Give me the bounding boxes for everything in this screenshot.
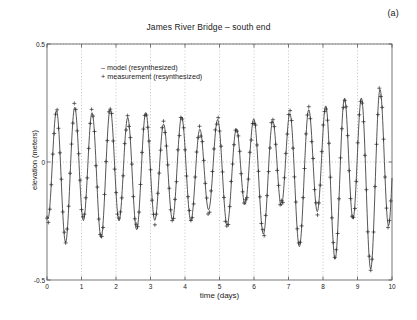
x-tick-label: 10	[388, 283, 395, 290]
series-measurement-markers	[45, 86, 393, 272]
x-tick-label: 3	[149, 283, 153, 290]
y-tick-label: 0.5	[36, 41, 45, 48]
x-tick-label: 4	[183, 283, 187, 290]
x-tick-label: 0	[45, 283, 49, 290]
plot-area	[0, 0, 417, 320]
x-tick-label: 9	[356, 283, 360, 290]
figure-panel: (a) James River Bridge – south end eleva…	[0, 0, 417, 320]
y-tick-label: 0	[41, 159, 45, 166]
x-tick-label: 8	[321, 283, 325, 290]
x-tick-label: 5	[218, 283, 222, 290]
x-tick-label: 1	[80, 283, 84, 290]
x-tick-label: 6	[252, 283, 256, 290]
x-tick-label: 2	[114, 283, 118, 290]
x-tick-label: 7	[287, 283, 291, 290]
y-tick-label: -0.5	[34, 277, 45, 284]
